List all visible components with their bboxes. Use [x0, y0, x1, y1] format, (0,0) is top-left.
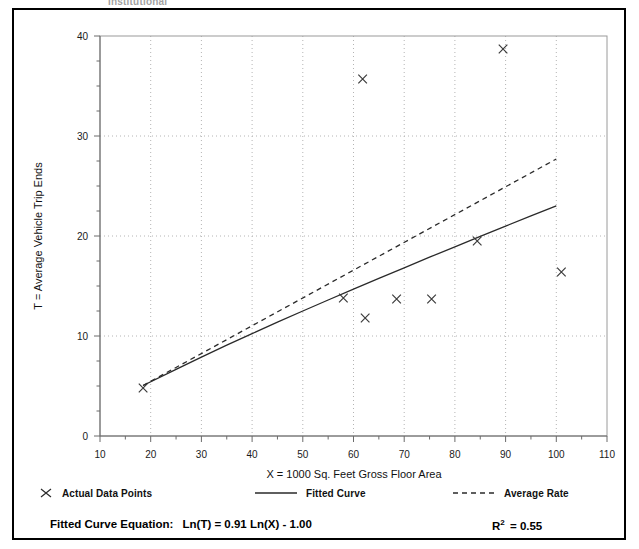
solid-line-icon: [254, 487, 298, 499]
svg-text:40: 40: [77, 31, 89, 42]
equation-body-text: Ln(T) = 0.91 Ln(X) - 1.00: [177, 518, 312, 530]
fitted-curve-line: [143, 206, 556, 386]
legend-label-fitted-curve: Fitted Curve: [306, 488, 366, 499]
r-squared-value: = 0.55: [508, 520, 542, 532]
x-axis-title: X = 1000 Sq. Feet Gross Floor Area: [266, 468, 442, 480]
svg-text:20: 20: [77, 231, 89, 242]
svg-text:70: 70: [399, 449, 411, 460]
legend-item-fitted-curve: Fitted Curve: [254, 487, 366, 499]
svg-text:110: 110: [599, 449, 615, 460]
r-squared-exponent: 2: [500, 518, 504, 527]
svg-text:80: 80: [449, 449, 461, 460]
x-marker-icon: [38, 487, 54, 499]
average-rate-line: [143, 159, 556, 386]
y-axis-tick-labels: 010203040: [77, 31, 89, 442]
legend-item-average-rate: Average Rate: [452, 487, 569, 499]
legend-label-average-rate: Average Rate: [504, 488, 569, 499]
svg-text:40: 40: [247, 449, 259, 460]
r-squared-annotation: R2 = 0.55: [492, 518, 542, 532]
grid-lines: [100, 36, 607, 436]
axis-ticks: [94, 36, 607, 442]
svg-text:10: 10: [94, 449, 106, 460]
legend-label-actual-data-points: Actual Data Points: [62, 488, 152, 499]
legend-item-actual-data-points: Actual Data Points: [38, 487, 152, 499]
svg-text:50: 50: [297, 449, 309, 460]
chart-canvas: 102030405060708090100110 010203040 X = 1…: [0, 0, 639, 549]
chart-figure: Institutional 102030405060708090100110 0…: [0, 0, 639, 549]
chart-legend: Actual Data Points Fitted Curve Average …: [22, 487, 618, 509]
equation-row: Fitted Curve Equation: Ln(T) = 0.91 Ln(X…: [22, 518, 618, 538]
svg-text:10: 10: [77, 331, 89, 342]
svg-text:30: 30: [196, 449, 208, 460]
x-axis-tick-labels: 102030405060708090100110: [94, 449, 615, 460]
svg-text:30: 30: [77, 131, 89, 142]
svg-text:60: 60: [348, 449, 360, 460]
fitted-curve-equation: Fitted Curve Equation: Ln(T) = 0.91 Ln(X…: [50, 518, 312, 530]
svg-text:0: 0: [82, 431, 88, 442]
svg-text:100: 100: [548, 449, 565, 460]
dashed-line-icon: [452, 487, 496, 499]
data-point-markers: [139, 45, 566, 393]
svg-text:90: 90: [500, 449, 512, 460]
svg-text:20: 20: [145, 449, 157, 460]
y-axis-title: T = Average Vehicle Trip Ends: [32, 162, 44, 310]
equation-prefix-label: Fitted Curve Equation:: [50, 518, 173, 530]
